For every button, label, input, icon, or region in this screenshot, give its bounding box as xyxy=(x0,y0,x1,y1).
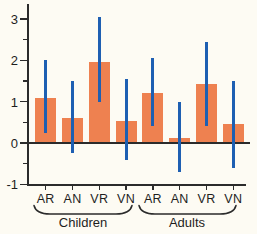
y-tick-minor xyxy=(23,39,28,40)
error-bar-adults-vr xyxy=(205,42,208,127)
error-bar-children-vn xyxy=(125,79,128,160)
error-bar-adults-vn xyxy=(232,81,235,168)
y-tick-major xyxy=(20,18,27,19)
adults-brace xyxy=(139,206,236,215)
error-bar-adults-an xyxy=(178,102,181,172)
y-tick-minor xyxy=(23,80,28,81)
error-bar-adults-ar xyxy=(151,58,154,126)
y-tick-label: 1 xyxy=(0,96,18,109)
error-bar-children-an xyxy=(71,81,74,153)
x-tick xyxy=(72,186,73,190)
x-tick xyxy=(99,186,100,190)
y-tick-minor xyxy=(23,163,28,164)
y-tick-major xyxy=(20,101,27,102)
y-tick-major xyxy=(20,60,27,61)
x-tick xyxy=(45,186,46,190)
y-tick-label: 3 xyxy=(0,13,18,26)
zero-line xyxy=(27,142,250,144)
y-tick-major xyxy=(20,184,27,185)
error-bar-children-ar xyxy=(44,60,47,132)
y-tick-minor xyxy=(23,122,28,123)
group-label-children: Children xyxy=(43,216,123,229)
y-axis xyxy=(27,4,29,186)
y-tick-label: 2 xyxy=(0,54,18,67)
y-tick-label: -1 xyxy=(0,178,18,191)
x-tick xyxy=(179,186,180,190)
x-axis xyxy=(27,184,246,186)
x-tick xyxy=(233,186,234,190)
bar-chart-figure: 3210-1ARANVRVNARANVRVN Children Adults xyxy=(0,0,257,234)
x-tick xyxy=(206,186,207,190)
y-tick-label: 0 xyxy=(0,137,18,150)
x-tick xyxy=(125,186,126,190)
y-tick-major xyxy=(20,142,27,143)
x-tick xyxy=(152,186,153,190)
error-bar-children-vr xyxy=(98,17,101,102)
group-label-adults: Adults xyxy=(147,216,227,229)
children-brace xyxy=(34,206,132,215)
